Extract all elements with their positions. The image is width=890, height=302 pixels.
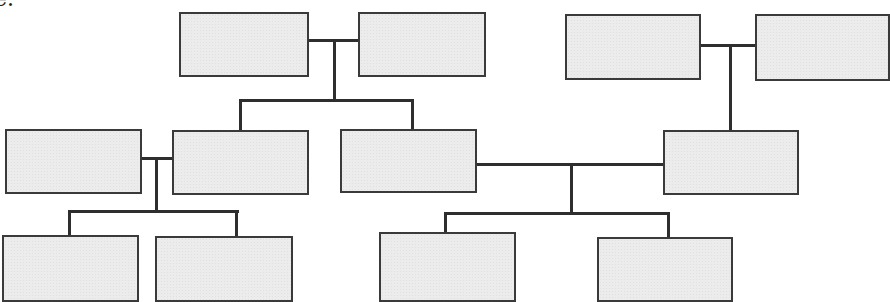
- connector-line: [411, 99, 414, 129]
- connector-line: [701, 44, 755, 47]
- connector-line: [235, 210, 238, 236]
- tree-box-grandchild-3: [379, 232, 516, 302]
- tree-box-grandchild-1: [2, 235, 139, 302]
- connector-line: [444, 212, 447, 232]
- connector-line: [444, 212, 670, 215]
- connector-line: [570, 163, 573, 214]
- connector-line: [68, 210, 71, 235]
- connector-line: [239, 99, 414, 102]
- tree-box-gp2-b: [755, 14, 890, 81]
- tree-box-gp1-b: [358, 12, 486, 77]
- tree-box-child1: [172, 130, 309, 195]
- tree-box-gp2-a: [565, 14, 701, 80]
- connector-line: [729, 44, 732, 130]
- connector-line: [239, 99, 242, 130]
- tree-box-left-spouse: [5, 129, 142, 194]
- connector-line: [333, 39, 336, 101]
- connector-line: [667, 212, 670, 237]
- tree-box-child2: [340, 129, 477, 193]
- tree-box-grandchild-2: [155, 236, 293, 302]
- connector-line: [68, 210, 239, 213]
- tree-box-gp1-a: [179, 12, 309, 77]
- tree-box-gp2-child: [663, 130, 799, 195]
- caption-fragment: e.: [0, 0, 14, 10]
- tree-box-grandchild-4: [597, 237, 733, 302]
- connector-line: [155, 157, 158, 212]
